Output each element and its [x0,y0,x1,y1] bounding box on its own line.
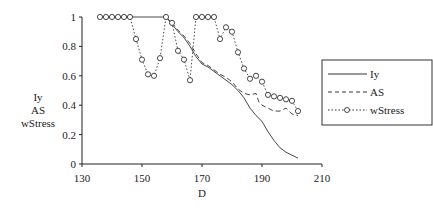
y-tick-label: 1 [71,11,77,23]
y-tick-label: 0.4 [62,99,76,111]
wstress-marker [199,14,204,19]
wstress-marker [193,14,198,19]
y-tick-label: 0.8 [62,40,76,52]
y-axis-label: Iy AS wStress [21,91,55,129]
wstress-marker [247,76,252,81]
legend-as-label: AS [370,86,384,98]
wstress-marker [253,73,258,78]
wstress-marker [127,14,132,19]
wstress-marker [145,72,150,77]
wstress-marker [277,95,282,100]
line-chart: 00.20.40.60.81 130150170190210 Iy AS wSt… [0,0,433,212]
series-iy-line [100,17,298,158]
wstress-marker [217,36,222,41]
wstress-marker [139,57,144,62]
legend-wstress-label: wStress [370,104,404,116]
wstress-marker [229,29,234,34]
x-tick-label: 130 [74,172,91,184]
wstress-marker [265,92,270,97]
ylabel-iy: Iy [33,91,43,103]
wstress-marker [223,25,228,30]
wstress-marker [271,94,276,99]
x-tick-label: 150 [134,172,151,184]
wstress-marker [121,14,126,19]
y-tick-label: 0.2 [62,129,76,141]
ylabel-as: AS [31,104,45,116]
wstress-marker [175,48,180,53]
wstress-marker [133,36,138,41]
wstress-marker [181,57,186,62]
wstress-marker [169,20,174,25]
wstress-marker [295,108,300,113]
x-tick-label: 170 [194,172,211,184]
plot-area [97,14,300,158]
wstress-marker [235,50,240,55]
wstress-marker [109,14,114,19]
wstress-marker [115,14,120,19]
wstress-marker [259,79,264,84]
legend: Iy AS wStress [322,60,432,125]
axes: 00.20.40.60.81 130150170190210 [62,11,331,184]
x-ticks: 130150170190210 [74,164,331,184]
legend-wstress-marker [345,108,350,113]
wstress-marker [157,56,162,61]
wstress-marker [289,98,294,103]
wstress-marker [211,14,216,19]
y-tick-label: 0.6 [62,70,76,82]
wstress-marker [283,97,288,102]
wstress-marker [103,14,108,19]
legend-iy-label: Iy [370,68,380,80]
wstress-marker [163,14,168,19]
x-axis-label: D [198,187,206,199]
wstress-marker [241,66,246,71]
y-ticks: 00.20.40.60.81 [62,11,82,170]
wstress-marker [205,14,210,19]
x-tick-label: 210 [314,172,331,184]
x-tick-label: 190 [254,172,271,184]
wstress-marker [97,14,102,19]
wstress-marker [151,73,156,78]
wstress-marker [187,78,192,83]
ylabel-wstress: wStress [21,117,55,129]
y-tick-label: 0 [71,158,77,170]
